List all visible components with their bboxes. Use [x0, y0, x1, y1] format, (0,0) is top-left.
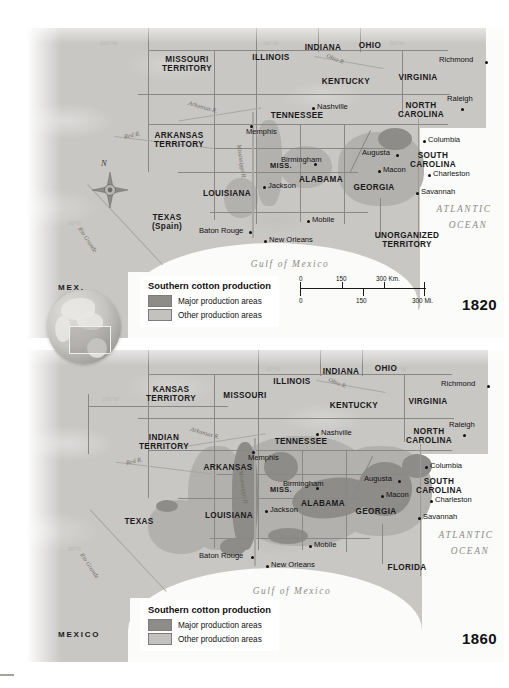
city-label-augusta: Augusta [364, 475, 392, 483]
legend-swatch-major [148, 619, 172, 631]
state-label-kansas-territory: KANSAS TERRITORY [140, 386, 202, 404]
city-dot [265, 510, 268, 513]
state-label-louisiana: LOUISIANA [196, 512, 262, 521]
coastline [420, 444, 421, 576]
state-border [138, 418, 454, 419]
city-dot [249, 231, 252, 234]
scale-tick [342, 282, 343, 289]
city-label-mobile: Mobile [312, 216, 334, 224]
state-label-ohio: OHIO [346, 42, 394, 51]
state-border [88, 406, 228, 407]
city-label-new-orleans: New Orleans [269, 236, 313, 244]
city-label-savannah: Savannah [423, 513, 457, 521]
ocean-label-atlantic: OCEAN [434, 546, 504, 556]
city-label-nashville: Nashville [317, 103, 348, 111]
coastline [418, 118, 419, 248]
scale-label-km: 150 [336, 275, 347, 282]
city-dot [418, 517, 421, 520]
city-label-columbia: Columbia [430, 462, 462, 470]
city-label-savannah: Savannah [421, 188, 455, 196]
city-label-mobile: Mobile [314, 541, 336, 549]
city-label-nashville: Nashville [321, 429, 352, 437]
state-label-ohio: OHIO [362, 365, 410, 374]
figure-page: 100°W 90°W 80°W 30°N MISSOURI TERRITORY … [0, 0, 509, 688]
state-border [344, 124, 345, 224]
city-dot [463, 434, 466, 437]
scale-label-mi: 0 [299, 297, 303, 304]
state-label-alabama: ALABAMA [292, 500, 354, 509]
state-label-unorganized-territory: UNORGANIZED TERRITORY [368, 232, 446, 250]
state-label-south-carolina: SOUTH CAROLINA [406, 478, 472, 496]
city-dot [461, 108, 464, 111]
state-label-missouri-territory: MISSOURI TERRITORY [156, 56, 218, 74]
legend-label-major: Major production areas [178, 621, 262, 630]
state-border [148, 28, 149, 172]
ocean-label-atlantic: OCEAN [432, 220, 504, 230]
legend-1860: Southern cotton production Major product… [140, 600, 279, 651]
compass-star-icon [90, 170, 130, 210]
scale-tick [363, 289, 364, 296]
state-border [148, 350, 149, 498]
state-border [88, 394, 89, 454]
map-1860: 100°W 90°W 80°W 30°N KANSAS TERRITORY MI… [28, 350, 504, 662]
state-label-mexico: MEXICO [58, 631, 100, 640]
city-dot [428, 174, 431, 177]
state-label-north-carolina: NORTH CAROLINA [396, 428, 462, 446]
legend-label-other: Other production areas [178, 635, 262, 644]
scale-tick [424, 282, 425, 296]
landmass-mexico [28, 524, 130, 662]
year-label-1820: 1820 [462, 296, 497, 313]
scale-tick [384, 282, 385, 289]
ocean-label-atlantic: ATLANTIC [426, 530, 504, 540]
state-label-virginia: VIRGINIA [386, 74, 450, 83]
city-dot [263, 186, 266, 189]
city-label-macon: Macon [386, 491, 409, 499]
city-label-baton-rouge: Baton Rouge [199, 227, 243, 235]
city-label-raleigh: Raleigh [447, 95, 473, 103]
city-label-birmingham: Birmingham [281, 156, 322, 164]
state-border [382, 524, 383, 564]
latitude-label: 30°N [68, 546, 81, 552]
city-dot [264, 240, 267, 243]
city-dot [316, 433, 319, 436]
legend-swatch-other [148, 309, 172, 321]
city-dot [378, 170, 381, 173]
state-label-north-carolina: NORTH CAROLINA [388, 102, 454, 120]
compass-north-label: N [101, 158, 107, 168]
state-label-indian-territory: INDIAN TERRITORY [132, 434, 196, 452]
city-label-richmond: Richmond [441, 380, 475, 388]
state-label-arkansas-territory: ARKANSAS TERRITORY [146, 132, 212, 150]
state-border [148, 124, 448, 125]
city-dot [251, 556, 254, 559]
state-label-kentucky: KENTUCKY [314, 78, 378, 87]
state-label-illinois: ILLINOIS [240, 54, 302, 63]
globe-highlight-box [69, 326, 111, 354]
state-label-florida: FLORIDA [378, 564, 436, 573]
legend-item-other: Other production areas [148, 633, 271, 645]
scale-label-mi: 150 [356, 297, 367, 304]
globe-inset [47, 290, 121, 364]
legend-1820: Southern cotton production Major product… [140, 276, 279, 327]
state-label-illinois: ILLINOIS [262, 378, 322, 387]
latitude-label: 30°N [68, 220, 81, 226]
state-label-virginia: VIRGINIA [396, 398, 460, 407]
city-label-baton-rouge: Baton Rouge [199, 552, 243, 560]
state-label-south-carolina: SOUTH CAROLINA [400, 152, 466, 170]
state-label-texas-spain: TEXAS (Spain) [136, 214, 198, 232]
state-label-arkansas: ARKANSAS [194, 464, 262, 473]
state-border [178, 172, 358, 173]
state-label-louisiana: LOUISIANA [194, 190, 260, 199]
city-dot [398, 480, 401, 483]
city-dot [485, 61, 488, 64]
city-dot [416, 192, 419, 195]
longitude-label: 100°W [102, 396, 120, 402]
legend-title: Southern cotton production [148, 605, 271, 615]
longitude-label: 90°W [266, 366, 281, 372]
city-dot [487, 385, 490, 388]
city-dot [430, 500, 433, 503]
gulf-of-mexico-label: Gulf of Mexico [224, 259, 356, 269]
cotton-major-area [378, 128, 412, 150]
city-label-memphis: Memphis [248, 454, 279, 462]
city-label-jackson: Jackson [268, 182, 296, 190]
state-label-georgia: GEORGIA [344, 184, 404, 193]
